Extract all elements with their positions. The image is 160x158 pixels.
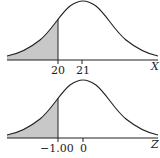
- bottom-curve: [7, 80, 158, 135]
- top-tick-20: 20: [51, 64, 65, 77]
- bottom-axis-label: Z: [150, 138, 159, 151]
- bottom-tick-0: 0: [80, 142, 87, 155]
- top-axis-label: X: [150, 60, 160, 73]
- top-chart: 20 21 X: [7, 1, 160, 77]
- bottom-chart: −1.00 0 Z: [7, 80, 159, 155]
- normal-curves-figure: 20 21 X −1.00 0 Z: [0, 0, 160, 158]
- top-curve: [7, 1, 158, 56]
- bottom-tick-neg1: −1.00: [40, 142, 74, 155]
- top-tick-21: 21: [76, 64, 90, 77]
- bottom-shaded-tail: [7, 98, 58, 138]
